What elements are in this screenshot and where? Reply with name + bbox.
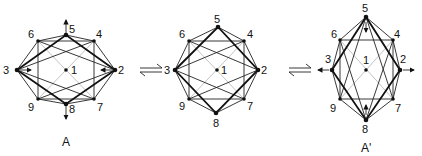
- node-label-7: 7: [395, 102, 401, 114]
- node-label-3: 3: [325, 53, 331, 65]
- node-label-8: 8: [362, 123, 368, 135]
- node-label-6: 6: [179, 28, 185, 40]
- node-label-3: 3: [3, 64, 9, 76]
- node-label-5: 5: [214, 13, 220, 25]
- equilibrium-arrow-1: [140, 64, 162, 76]
- node-label-4: 4: [247, 28, 253, 40]
- caption-a: A: [62, 135, 70, 149]
- node-label-2: 2: [400, 53, 406, 65]
- node-label-7: 7: [97, 101, 103, 113]
- panel-b: 1 2 3 4 5 6 7 8 9: [164, 13, 267, 129]
- panel-a-prime: 1 2 3 4 5 6 7 8 9 A': [318, 2, 414, 155]
- panel-a: 1 2 3 4 5 6 7 8 9 A: [3, 20, 124, 149]
- caption-a-prime: A': [361, 141, 371, 155]
- diagram-canvas: 1 2 3 4 5 6 7 8 9 A: [0, 0, 422, 156]
- node-label-5: 5: [69, 23, 75, 35]
- node-label-4: 4: [96, 28, 102, 40]
- node-label-8: 8: [213, 117, 219, 129]
- node-label-1: 1: [221, 64, 227, 76]
- equilibrium-arrow-2: [289, 64, 311, 76]
- node-label-6: 6: [28, 28, 34, 40]
- node-label-3: 3: [164, 64, 170, 76]
- node-label-8: 8: [69, 103, 75, 115]
- node-label-9: 9: [28, 101, 34, 113]
- node-label-2: 2: [118, 64, 124, 76]
- node-label-5: 5: [362, 2, 368, 14]
- node-label-1: 1: [363, 54, 369, 66]
- node-label-7: 7: [247, 100, 253, 112]
- node-label-9: 9: [179, 100, 185, 112]
- node-label-6: 6: [331, 28, 337, 40]
- node-label-4: 4: [394, 28, 400, 40]
- node-label-1: 1: [71, 64, 77, 76]
- node-label-2: 2: [261, 64, 267, 76]
- node-label-9: 9: [330, 102, 336, 114]
